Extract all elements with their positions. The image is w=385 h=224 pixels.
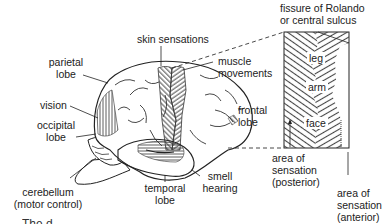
- anterior-sensation-label: area of sensation (anterior): [337, 187, 382, 223]
- vision-label: vision: [40, 99, 67, 111]
- temporal-lobe-label: temporal lobe: [143, 182, 187, 206]
- fissure-label: fissure of Rolando or central sulcus: [280, 2, 365, 26]
- frontal-lobe-label: frontal lobe: [238, 104, 267, 128]
- posterior-sensation-label: area of sensation (posterior): [272, 152, 320, 188]
- arm-label: arm: [306, 81, 328, 93]
- face-label: face: [304, 117, 328, 129]
- figure-caption: The d...: [22, 216, 63, 224]
- parietal-lobe-label: parietal lobe: [45, 56, 87, 80]
- smell-hearing-label: smell hearing: [200, 170, 240, 194]
- leg-label: leg: [307, 52, 325, 64]
- cerebellum-label: cerebellum (motor control): [12, 186, 84, 210]
- muscle-movements-label: muscle movements: [218, 55, 272, 79]
- occipital-lobe-label: occipital lobe: [34, 119, 78, 143]
- skin-sensations-label: skin sensations: [137, 33, 209, 45]
